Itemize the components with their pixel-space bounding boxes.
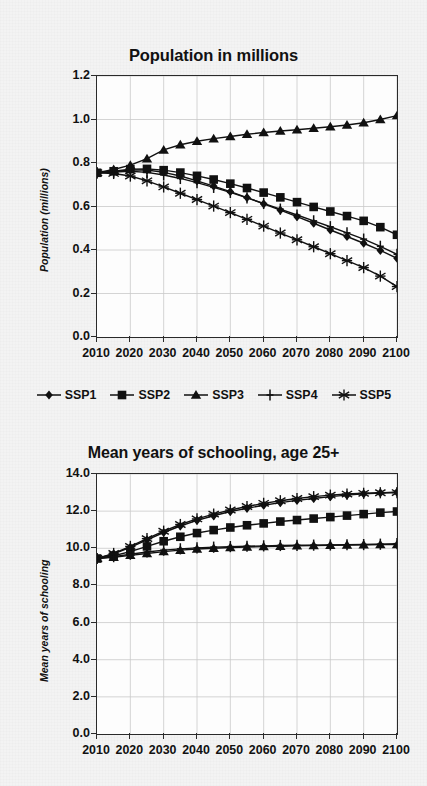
x-tick-mark xyxy=(229,733,230,739)
y-tick-mark xyxy=(91,162,96,163)
y-tick-label: 10.0 xyxy=(48,540,90,554)
chart-title-population: Population in millions xyxy=(0,46,427,65)
x-tick-label: 2020 xyxy=(116,346,144,360)
triangle-icon xyxy=(183,388,209,402)
x-tick-label: 2060 xyxy=(249,743,277,757)
x-tick-mark xyxy=(263,336,264,342)
legend-item-ssp3[interactable]: SSP3 xyxy=(183,388,244,402)
legend-label: SSP5 xyxy=(360,388,392,402)
plus-icon xyxy=(257,388,283,402)
x-tick-label: 2050 xyxy=(216,346,244,360)
chart-title-schooling: Mean years of schooling, age 25+ xyxy=(0,444,427,462)
x-tick-label: 2080 xyxy=(316,346,344,360)
legend-item-ssp4[interactable]: SSP4 xyxy=(257,388,318,402)
legend-item-ssp5[interactable]: SSP5 xyxy=(331,388,392,402)
x-tick-label: 2040 xyxy=(182,743,210,757)
y-tick-mark xyxy=(91,547,96,548)
x-tick-mark xyxy=(96,336,97,342)
y-tick-mark xyxy=(91,206,96,207)
x-tick-label: 2090 xyxy=(349,743,377,757)
x-tick-mark xyxy=(296,336,297,342)
y-tick-mark xyxy=(91,75,96,76)
x-tick-label: 2100 xyxy=(382,346,410,360)
y-tick-label: 14.0 xyxy=(48,466,90,480)
y-tick-mark xyxy=(91,696,96,697)
x-tick-mark xyxy=(396,733,397,739)
x-tick-mark xyxy=(163,336,164,342)
x-tick-mark xyxy=(163,733,164,739)
x-tick-mark xyxy=(129,336,130,342)
x-tick-mark xyxy=(229,336,230,342)
x-tick-mark xyxy=(363,733,364,739)
x-tick-mark xyxy=(196,336,197,342)
y-tick-mark xyxy=(91,119,96,120)
asterisk-icon xyxy=(331,388,357,402)
y-tick-label: 0.8 xyxy=(48,155,90,169)
y-tick-label: 8.0 xyxy=(48,577,90,591)
legend-label: SSP2 xyxy=(138,388,170,402)
y-tick-mark xyxy=(91,659,96,660)
legend-label: SSP3 xyxy=(212,388,244,402)
x-tick-label: 2040 xyxy=(182,346,210,360)
x-tick-label: 2030 xyxy=(149,346,177,360)
y-tick-mark xyxy=(91,584,96,585)
chart-legend: SSP1SSP2SSP3SSP4SSP5 xyxy=(0,388,427,402)
diamond-icon xyxy=(36,388,62,402)
x-tick-label: 2080 xyxy=(316,743,344,757)
square-icon xyxy=(109,388,135,402)
x-tick-mark xyxy=(263,733,264,739)
plot-area-schooling xyxy=(96,473,398,735)
x-tick-mark xyxy=(396,336,397,342)
plot-area-population xyxy=(96,75,398,338)
y-tick-label: 1.0 xyxy=(48,112,90,126)
y-tick-label: 2.0 xyxy=(48,689,90,703)
x-tick-label: 2050 xyxy=(216,743,244,757)
x-tick-label: 2100 xyxy=(382,743,410,757)
x-tick-label: 2060 xyxy=(249,346,277,360)
y-tick-label: 4.0 xyxy=(48,652,90,666)
y-tick-label: 1.2 xyxy=(48,68,90,82)
x-tick-mark xyxy=(329,336,330,342)
y-tick-label: 0.2 xyxy=(48,286,90,300)
y-axis-label-population: Population (millions) xyxy=(38,168,50,272)
x-tick-label: 2090 xyxy=(349,346,377,360)
x-tick-label: 2010 xyxy=(82,743,110,757)
y-tick-label: 0.6 xyxy=(48,199,90,213)
x-tick-label: 2070 xyxy=(282,743,310,757)
y-tick-label: 6.0 xyxy=(48,615,90,629)
y-tick-mark xyxy=(91,622,96,623)
y-tick-mark xyxy=(91,293,96,294)
x-tick-mark xyxy=(129,733,130,739)
x-tick-label: 2010 xyxy=(82,346,110,360)
y-tick-label: 0.0 xyxy=(48,726,90,740)
x-tick-mark xyxy=(363,336,364,342)
legend-item-ssp2[interactable]: SSP2 xyxy=(109,388,170,402)
y-tick-mark xyxy=(91,510,96,511)
x-tick-mark xyxy=(329,733,330,739)
legend-label: SSP1 xyxy=(65,388,97,402)
x-tick-mark xyxy=(196,733,197,739)
schooling-series-svg xyxy=(97,474,397,734)
x-tick-mark xyxy=(96,733,97,739)
legend-label: SSP4 xyxy=(286,388,318,402)
population-chart-panel: Population in millions Population (milli… xyxy=(0,0,427,430)
y-tick-label: 0.4 xyxy=(48,242,90,256)
x-tick-label: 2030 xyxy=(149,743,177,757)
y-tick-mark xyxy=(91,249,96,250)
y-tick-label: 0.0 xyxy=(48,329,90,343)
x-tick-label: 2020 xyxy=(116,743,144,757)
legend-item-ssp1[interactable]: SSP1 xyxy=(36,388,97,402)
x-tick-mark xyxy=(296,733,297,739)
population-series-svg xyxy=(97,76,397,337)
y-tick-label: 12.0 xyxy=(48,503,90,517)
x-tick-label: 2070 xyxy=(282,346,310,360)
y-tick-mark xyxy=(91,473,96,474)
